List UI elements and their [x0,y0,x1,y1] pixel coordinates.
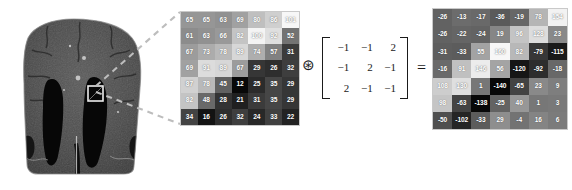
source-matrix-cell: 66 [215,28,232,44]
source-matrix-cell: 78 [198,77,215,93]
source-matrix-cell: 31 [282,44,299,60]
source-matrix-cell: 52 [282,28,299,44]
result-matrix-cell: 91 [452,60,471,77]
result-matrix-cell: 40 [510,95,529,112]
result-matrix-cell: 6 [548,112,567,129]
mri-image-panel [18,16,146,176]
source-matrix-cell: 69 [181,60,198,76]
source-matrix-cell: 32 [232,109,249,125]
result-matrix-cell: -24 [471,26,490,43]
source-matrix-cell: 80 [248,12,265,28]
result-matrix-cell: 1 [471,78,490,95]
source-matrix-cell: 89 [215,60,232,76]
result-matrix-cell: 130 [452,78,471,95]
source-matrix-cell: 69 [232,12,249,28]
source-matrix-cell: 22 [282,109,299,125]
source-matrix-cell: 29 [282,93,299,109]
result-matrix-cell: -120 [510,60,529,77]
result-matrix-cell: 23 [548,26,567,43]
result-matrix-cell: 146 [471,60,490,77]
source-matrix-cell: 91 [198,60,215,76]
source-matrix-cell: 82 [232,28,249,44]
result-matrix-cell: 56 [490,60,509,77]
brain-tissue [18,16,146,176]
source-matrix-cell: 92 [265,28,282,44]
bracket-left-icon [322,37,330,99]
source-matrix-cell: 26 [265,60,282,76]
result-matrix-cell: -25 [490,95,509,112]
result-matrix-cell: -26 [433,26,452,43]
result-matrix-cell: -4 [510,112,529,129]
source-matrix-cell: 16 [198,109,215,125]
result-matrix-cell: -18 [548,60,567,77]
bracket-right-icon [400,37,408,99]
result-matrix-cell: -33 [471,112,490,129]
source-matrix-cell: 89 [232,44,249,60]
result-matrix-cell: -19 [510,9,529,26]
mri-canvas [18,16,146,176]
source-matrix-cell: 26 [215,109,232,125]
result-matrix-cell: 29 [490,112,509,129]
kernel-grid: −1−12−12−12−1−1 [330,37,400,99]
source-matrix-cell: 29 [248,60,265,76]
source-matrix-cell: 86 [265,12,282,28]
source-matrix-cell: 12 [232,77,249,93]
source-matrix-cell: 28 [215,93,232,109]
result-matrix-cell: 98 [433,95,452,112]
result-matrix-cell: -79 [529,43,548,60]
kernel-cell: −1 [377,78,400,99]
source-matrix-cell: 35 [265,77,282,93]
source-matrix-cell: 78 [215,44,232,60]
kernel-matrix: −1−12−12−12−1−1 [322,37,408,99]
source-matrix-cell: 100 [248,28,265,44]
source-matrix-cell: 73 [198,44,215,60]
result-matrix-cell: -115 [548,43,567,60]
coronal-brain-mri-graphic [18,16,146,176]
source-matrix-cell: 61 [181,28,198,44]
source-matrix-cell: 87 [181,77,198,93]
result-matrix-cell: -50 [433,112,452,129]
source-matrix-cell: 34 [181,109,198,125]
result-matrix-cell: -140 [490,78,509,95]
source-matrix-cell: 63 [215,12,232,28]
kernel-cell: 2 [377,37,400,58]
source-matrix-cell: 25 [248,77,265,93]
source-matrix-cell: 32 [282,60,299,76]
result-matrix-cell: -92 [529,60,548,77]
source-matrix-cell: 35 [265,93,282,109]
result-matrix-cell: -138 [471,95,490,112]
result-matrix-cell: 55 [471,43,490,60]
result-matrix-cell: -65 [510,78,529,95]
result-matrix-cell: -26 [433,9,452,26]
source-matrix-cell: 67 [181,44,198,60]
source-matrix-cell: 65 [181,12,198,28]
source-matrix-cell: 65 [198,12,215,28]
source-matrix-cell: 101 [282,12,299,28]
result-matrix-cell: -16 [433,60,452,77]
kernel-cell: −1 [377,58,400,79]
result-matrix-cell: -31 [433,43,452,60]
source-matrix-cell: 31 [248,93,265,109]
kernel-cell: −1 [353,78,376,99]
source-matrix-cell: 45 [215,77,232,93]
source-matrix-cell: 48 [198,93,215,109]
result-matrix-cell: -13 [452,9,471,26]
source-image-patch-matrix: 6565636980861016163668210092526773788974… [180,11,300,126]
source-matrix-cell: 24 [248,109,265,125]
equals-operator-icon: = [417,60,426,76]
source-matrix-cell: 33 [265,109,282,125]
kernel-cell: −1 [353,37,376,58]
convolution-operator-icon: ⊛ [302,58,315,73]
result-matrix-cell: 1 [529,95,548,112]
source-matrix-cell: 29 [282,77,299,93]
result-matrix-cell: -17 [471,9,490,26]
kernel-cell: 2 [353,58,376,79]
result-matrix-cell: -102 [452,112,471,129]
kernel-cell: −1 [330,58,353,79]
result-matrix-cell: 19 [490,26,509,43]
source-matrix-cell: 67 [232,60,249,76]
source-matrix-cell: 21 [232,93,249,109]
result-matrix-cell: 96 [510,26,529,43]
result-output-matrix: -26-13-17-36-1978154-26-22-24199612823-3… [432,8,568,130]
source-matrix-cell: 57 [265,44,282,60]
